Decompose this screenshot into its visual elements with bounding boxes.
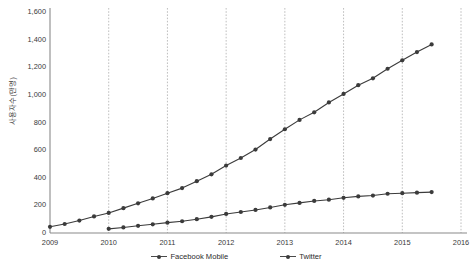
- data-point-twitter-10: [253, 208, 257, 212]
- data-point-twitter-14: [312, 199, 316, 203]
- x-axis-tick-2013: 2013: [262, 238, 308, 247]
- data-point-facebook-mobile-5: [121, 206, 125, 210]
- data-point-facebook-mobile-22: [371, 76, 375, 80]
- y-axis-tick-200: 200: [12, 201, 46, 209]
- data-point-twitter-0: [107, 227, 111, 231]
- data-point-facebook-mobile-4: [107, 211, 111, 215]
- x-axis-tick-2016: 2016: [438, 238, 473, 247]
- data-point-facebook-mobile-3: [92, 214, 96, 218]
- data-point-facebook-mobile-7: [151, 196, 155, 200]
- data-point-twitter-1: [121, 225, 125, 229]
- chart-legend: Facebook Mobile Twitter: [0, 252, 473, 261]
- y-axis-tick-800: 800: [12, 119, 46, 127]
- series-line-twitter: [109, 192, 432, 229]
- x-axis-tick-2011: 2011: [144, 238, 190, 247]
- data-point-facebook-mobile-26: [430, 42, 434, 46]
- data-point-facebook-mobile-18: [312, 110, 316, 114]
- y-axis-tick-600: 600: [12, 146, 46, 154]
- legend-marker-icon: [280, 253, 296, 260]
- data-point-twitter-12: [283, 203, 287, 207]
- data-point-facebook-mobile-8: [165, 191, 169, 195]
- x-axis-tick-2009: 2009: [27, 238, 73, 247]
- data-point-facebook-mobile-12: [224, 163, 228, 167]
- x-axis-tick-2015: 2015: [379, 238, 425, 247]
- data-point-twitter-21: [415, 191, 419, 195]
- line-chart: 사용자수(만명) 02004006008001,0001,2001,4001,6…: [0, 0, 473, 271]
- data-point-facebook-mobile-6: [136, 201, 140, 205]
- data-point-facebook-mobile-20: [341, 92, 345, 96]
- data-point-twitter-18: [371, 193, 375, 197]
- data-point-twitter-15: [327, 198, 331, 202]
- y-axis-tick-400: 400: [12, 174, 46, 182]
- data-point-twitter-6: [195, 217, 199, 221]
- data-point-twitter-3: [151, 222, 155, 226]
- data-point-facebook-mobile-0: [48, 225, 52, 229]
- legend-label-facebook-mobile: Facebook Mobile: [170, 252, 228, 261]
- x-axis-tick-2010: 2010: [86, 238, 132, 247]
- legend-marker-icon: [151, 253, 167, 260]
- data-point-twitter-7: [209, 215, 213, 219]
- data-point-twitter-22: [430, 190, 434, 194]
- data-point-twitter-5: [180, 219, 184, 223]
- data-point-facebook-mobile-23: [386, 67, 390, 71]
- data-point-facebook-mobile-14: [253, 147, 257, 151]
- data-point-facebook-mobile-13: [239, 156, 243, 160]
- data-point-twitter-19: [386, 192, 390, 196]
- data-point-facebook-mobile-16: [283, 127, 287, 131]
- data-point-twitter-2: [136, 224, 140, 228]
- y-axis-tick-1000: 1,000: [12, 91, 46, 99]
- data-point-facebook-mobile-1: [63, 222, 67, 226]
- y-axis-tick-labels: 02004006008001,0001,2001,4001,600: [8, 0, 46, 271]
- data-point-facebook-mobile-2: [77, 218, 81, 222]
- data-point-twitter-13: [297, 201, 301, 205]
- series-line-facebook-mobile: [50, 44, 432, 226]
- x-axis-tick-2012: 2012: [203, 238, 249, 247]
- plot-area: [0, 0, 473, 271]
- data-point-twitter-17: [356, 194, 360, 198]
- legend-item-facebook-mobile[interactable]: Facebook Mobile: [151, 252, 228, 261]
- data-point-twitter-8: [224, 212, 228, 216]
- y-axis-tick-1600: 1,600: [12, 8, 46, 16]
- legend-label-twitter: Twitter: [299, 252, 321, 261]
- data-point-twitter-11: [268, 205, 272, 209]
- legend-item-twitter[interactable]: Twitter: [280, 252, 321, 261]
- data-point-twitter-4: [165, 221, 169, 225]
- data-point-facebook-mobile-15: [268, 137, 272, 141]
- data-point-facebook-mobile-21: [356, 83, 360, 87]
- data-point-facebook-mobile-25: [415, 50, 419, 54]
- y-axis-tick-1400: 1,400: [12, 36, 46, 44]
- data-point-facebook-mobile-24: [400, 58, 404, 62]
- data-point-twitter-9: [239, 210, 243, 214]
- data-point-facebook-mobile-19: [327, 100, 331, 104]
- x-axis-tick-2014: 2014: [321, 238, 367, 247]
- data-point-facebook-mobile-10: [195, 179, 199, 183]
- data-point-facebook-mobile-11: [209, 172, 213, 176]
- data-point-facebook-mobile-17: [297, 118, 301, 122]
- y-axis-tick-0: 0: [12, 229, 46, 237]
- y-axis-tick-1200: 1,200: [12, 63, 46, 71]
- data-point-twitter-20: [400, 191, 404, 195]
- data-point-twitter-16: [341, 196, 345, 200]
- data-point-facebook-mobile-9: [180, 186, 184, 190]
